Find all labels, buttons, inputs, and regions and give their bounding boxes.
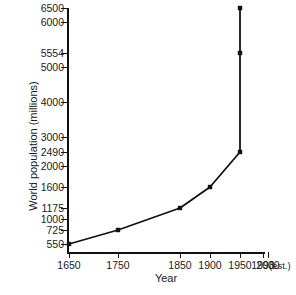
y-tick-label: 6000 [41, 17, 64, 28]
y-tick-label: 2000 [41, 161, 64, 172]
x-tick-mark [268, 252, 269, 258]
y-tick-label: 4000 [41, 97, 64, 108]
data-point-marker [67, 242, 71, 246]
y-tick-label: 1000 [41, 214, 64, 225]
x-axis-line [67, 252, 265, 254]
y-tick-label: 5000 [41, 62, 64, 73]
y-tick-label: 3000 [41, 132, 64, 143]
data-point-marker [178, 206, 182, 210]
x-tick-mark [118, 252, 119, 258]
data-point-marker [116, 228, 120, 232]
y-tick-label: 5554 [41, 48, 64, 59]
x-tick-label: 1750 [106, 260, 129, 271]
x-tick-label: 1650 [57, 260, 80, 271]
data-point-markers [67, 6, 242, 246]
data-point-marker [238, 51, 242, 55]
y-tick-label: 2490 [41, 147, 64, 158]
data-point-marker [208, 185, 212, 189]
data-point-marker [238, 150, 242, 154]
y-axis-title: World population (millions) [27, 51, 39, 241]
plot-area: 6500600055545000400030002490200016001175… [67, 8, 272, 252]
x-tick-label: 1950 [228, 260, 251, 271]
y-tick-label: 725 [46, 225, 64, 236]
population-line [69, 8, 240, 244]
y-tick-label: 6500 [41, 3, 64, 14]
x-tick-mark [263, 252, 264, 258]
x-axis-est-note: (est.) [269, 260, 291, 271]
y-tick-label: 1600 [41, 182, 64, 193]
data-point-marker [238, 6, 242, 10]
population-line-chart: World population (millions) 650060005554… [0, 0, 296, 295]
x-tick-mark [69, 252, 70, 258]
x-tick-mark [210, 252, 211, 258]
x-tick-mark [180, 252, 181, 258]
data-series-line [67, 8, 272, 252]
y-tick-label: 1175 [41, 203, 64, 214]
x-tick-mark [240, 252, 241, 258]
x-axis-title: Year [67, 272, 265, 284]
x-tick-label: 1900 [198, 260, 221, 271]
y-tick-label: 550 [46, 239, 64, 250]
x-tick-label: 1850 [168, 260, 191, 271]
